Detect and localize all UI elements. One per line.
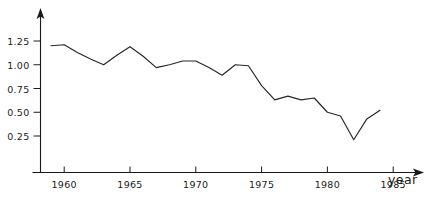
chart-canvas (0, 0, 444, 202)
y-tick-label: 0.75 (0, 83, 30, 94)
y-tick-label: 1.25 (0, 36, 30, 47)
y-tick-label: 0.50 (0, 107, 30, 118)
y-tick-marks (34, 41, 41, 136)
x-tick-label: 1970 (183, 179, 208, 190)
x-axis-title: year (388, 172, 418, 187)
x-tick-label: 1980 (315, 179, 340, 190)
data-series-group (51, 45, 380, 140)
y-tick-label: 0.25 (0, 131, 30, 142)
series-line-0 (51, 45, 380, 140)
x-tick-marks (64, 167, 393, 173)
y-tick-label: 1.00 (0, 59, 30, 70)
axes-group (33, 8, 424, 176)
chart-figure: 0.250.500.751.001.25 1960196519701975198… (0, 0, 444, 202)
x-tick-label: 1960 (51, 179, 76, 190)
x-tick-label: 1975 (249, 179, 274, 190)
x-tick-label: 1965 (117, 179, 142, 190)
